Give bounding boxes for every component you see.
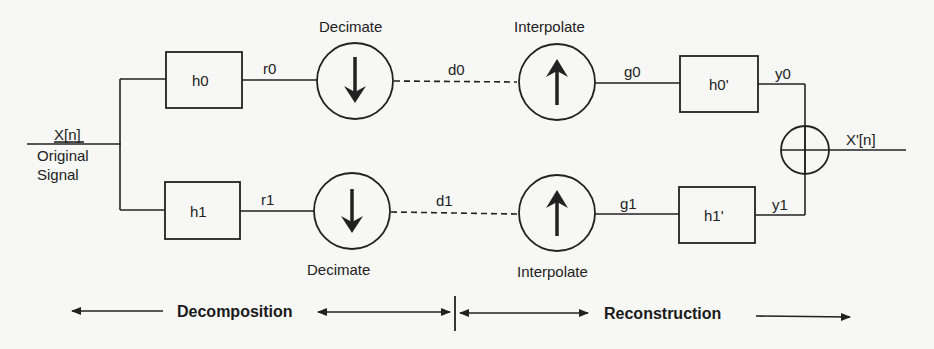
signal-y0: y0 (775, 65, 791, 82)
branch-bottom: h1 r1 Decimate d1 Interpolate g1 h1' y1 (165, 173, 805, 280)
output-label: X'[n] (846, 131, 876, 148)
signal-g1: g1 (620, 195, 637, 212)
filter-h1-label: h1 (190, 203, 207, 220)
reconstruction-label: Reconstruction (604, 305, 721, 322)
decimate-top-label: Decimate (319, 18, 382, 35)
signal-r1: r1 (261, 191, 274, 208)
decomposition-label: Decomposition (177, 303, 293, 320)
summer (781, 84, 829, 215)
output-signal: X'[n] (829, 131, 906, 150)
input-caption-line1: Original (37, 147, 89, 164)
input-label: X[n] (54, 126, 81, 143)
signal-d0: d0 (448, 61, 465, 78)
input-signal: X[n] Original Signal (27, 126, 121, 183)
filter-h0-label: h0 (192, 72, 209, 89)
signal-r0: r0 (263, 60, 276, 77)
input-caption-line2: Signal (37, 166, 79, 183)
stage-legend: Decomposition Reconstruction (72, 296, 850, 331)
interpolate-top-label: Interpolate (514, 18, 585, 35)
signal-g0: g0 (624, 63, 641, 80)
interpolate-bottom-label: Interpolate (517, 263, 588, 280)
filter-h1-prime-label: h1' (704, 207, 724, 224)
input-splitter (120, 79, 166, 210)
filter-bank-diagram: X[n] Original Signal h0 r0 Decimate d0 I… (0, 0, 934, 349)
signal-d1: d1 (436, 192, 453, 209)
filter-h0-prime-label: h0' (709, 76, 729, 93)
decimate-bottom-label: Decimate (307, 261, 370, 278)
branch-top: h0 r0 Decimate d0 Interpolate g0 h0' y0 (166, 18, 805, 120)
signal-y1: y1 (772, 196, 788, 213)
